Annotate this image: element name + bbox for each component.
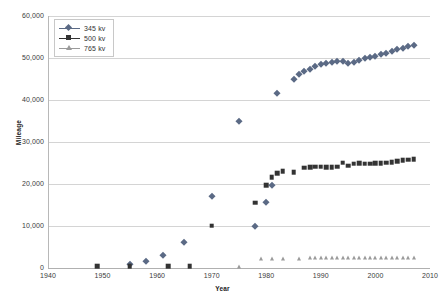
y-axis-title: Mileage — [15, 103, 22, 163]
data-point-500-kv — [329, 165, 334, 170]
data-point-765-kv — [363, 256, 367, 260]
data-point-500-kv — [351, 162, 356, 167]
data-point-765-kv — [259, 257, 263, 261]
data-point-500-kv — [368, 162, 373, 167]
data-point-345-kv — [208, 193, 214, 199]
x-tick-label: 1990 — [301, 272, 341, 280]
data-point-500-kv — [275, 171, 280, 176]
y-tick-label: 40,000 — [0, 96, 44, 104]
data-point-500-kv — [308, 165, 313, 170]
data-point-345-kv — [410, 42, 416, 48]
data-point-345-kv — [378, 51, 384, 57]
data-point-500-kv — [357, 161, 362, 166]
gridline-y — [48, 58, 430, 59]
data-point-765-kv — [357, 256, 361, 260]
data-point-500-kv — [390, 160, 395, 165]
data-point-500-kv — [400, 158, 405, 163]
data-point-765-kv — [368, 256, 372, 260]
data-point-765-kv — [297, 256, 301, 260]
data-point-500-kv — [395, 159, 400, 164]
data-point-345-kv — [143, 258, 149, 264]
data-point-765-kv — [281, 257, 285, 261]
data-point-500-kv — [384, 160, 389, 165]
data-point-345-kv — [296, 71, 302, 77]
y-axis-line — [48, 16, 49, 268]
data-point-765-kv — [319, 256, 323, 260]
data-point-345-kv — [350, 59, 356, 65]
legend-marker-icon — [59, 43, 80, 53]
data-point-500-kv — [335, 164, 340, 169]
data-point-765-kv — [390, 256, 394, 260]
x-tick-label: 1950 — [83, 272, 123, 280]
y-tick-label: 0 — [0, 264, 44, 272]
data-point-345-kv — [399, 44, 405, 50]
data-point-765-kv — [313, 256, 317, 260]
data-point-345-kv — [127, 261, 133, 267]
data-point-765-kv — [308, 256, 312, 260]
gridline-y — [48, 184, 430, 185]
y-tick-label: 20,000 — [0, 180, 44, 188]
y-tick-label: 60,000 — [0, 12, 44, 20]
data-point-500-kv — [406, 157, 411, 162]
x-tick-label: 2010 — [410, 272, 445, 280]
gridline-y — [48, 16, 430, 17]
data-point-345-kv — [290, 76, 296, 82]
data-point-765-kv — [335, 256, 339, 260]
legend-label: 765 kv — [84, 44, 106, 53]
data-point-345-kv — [323, 60, 329, 66]
data-point-345-kv — [159, 252, 165, 258]
data-point-345-kv — [329, 59, 335, 65]
legend-label: 500 kv — [84, 34, 106, 43]
data-point-765-kv — [373, 256, 377, 260]
chart-legend[interactable]: 345 kv500 kv765 kv — [54, 19, 114, 57]
data-point-500-kv — [280, 169, 285, 174]
y-tick-label: 50,000 — [0, 54, 44, 62]
data-point-765-kv — [341, 256, 345, 260]
data-point-500-kv — [411, 157, 416, 162]
data-point-345-kv — [318, 61, 324, 67]
gridline-y — [48, 226, 430, 227]
data-point-500-kv — [319, 164, 324, 169]
data-point-765-kv — [270, 257, 274, 261]
gridline-y — [48, 100, 430, 101]
data-point-765-kv — [352, 256, 356, 260]
data-point-765-kv — [330, 256, 334, 260]
x-axis-title: Year — [0, 285, 445, 292]
data-point-765-kv — [379, 256, 383, 260]
data-point-345-kv — [268, 182, 274, 188]
data-point-765-kv — [401, 256, 405, 260]
data-point-345-kv — [301, 68, 307, 74]
data-point-500-kv — [346, 163, 351, 168]
data-point-765-kv — [384, 256, 388, 260]
data-point-345-kv — [345, 60, 351, 66]
x-tick-label: 1970 — [192, 272, 232, 280]
legend-label: 345 kv — [84, 24, 106, 33]
gridline-y — [48, 268, 430, 269]
x-tick-label: 1940 — [28, 272, 68, 280]
legend-marker-icon — [59, 33, 80, 43]
data-point-345-kv — [263, 199, 269, 205]
data-point-500-kv — [253, 201, 258, 206]
data-point-500-kv — [324, 165, 329, 170]
data-point-345-kv — [312, 62, 318, 68]
data-point-345-kv — [394, 46, 400, 52]
data-point-765-kv — [346, 256, 350, 260]
legend-marker-icon — [59, 23, 80, 33]
x-tick-label: 1980 — [246, 272, 286, 280]
data-point-345-kv — [236, 118, 242, 124]
legend-item-500-kv[interactable]: 500 kv — [59, 33, 106, 43]
data-point-500-kv — [379, 161, 384, 166]
y-tick-label: 10,000 — [0, 222, 44, 230]
data-point-500-kv — [373, 161, 378, 166]
data-point-500-kv — [291, 170, 296, 175]
data-point-765-kv — [406, 256, 410, 260]
legend-item-765-kv[interactable]: 765 kv — [59, 43, 106, 53]
data-point-345-kv — [274, 90, 280, 96]
data-point-500-kv — [362, 162, 367, 167]
data-point-765-kv — [395, 256, 399, 260]
data-point-345-kv — [383, 49, 389, 55]
data-point-500-kv — [340, 160, 345, 165]
legend-item-345-kv[interactable]: 345 kv — [59, 23, 106, 33]
x-tick-label: 1960 — [137, 272, 177, 280]
data-point-500-kv — [302, 165, 307, 170]
